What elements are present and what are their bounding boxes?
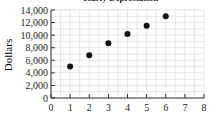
svg-text:2: 2 <box>87 102 92 113</box>
svg-text:6,000: 6,000 <box>26 55 49 66</box>
svg-text:7: 7 <box>182 102 187 113</box>
svg-text:2,000: 2,000 <box>26 80 49 91</box>
svg-text:0: 0 <box>49 102 54 113</box>
svg-text:10,000: 10,000 <box>21 30 49 41</box>
data-point <box>67 64 73 70</box>
data-point <box>86 52 92 58</box>
svg-text:4: 4 <box>125 102 130 113</box>
data-point <box>125 31 131 37</box>
data-point <box>144 23 150 29</box>
data-point <box>105 40 111 46</box>
grid-lines <box>51 10 204 98</box>
svg-text:14,000: 14,000 <box>21 5 49 16</box>
scatter-chart: 02,0004,0006,0008,00010,00012,00014,000 … <box>0 0 209 114</box>
svg-text:6: 6 <box>163 102 168 113</box>
y-axis-label: Dollars <box>2 39 14 71</box>
svg-text:4,000: 4,000 <box>26 67 49 78</box>
data-point <box>163 13 169 19</box>
svg-text:12,000: 12,000 <box>21 17 49 28</box>
svg-text:3: 3 <box>106 102 111 113</box>
svg-text:8,000: 8,000 <box>26 42 49 53</box>
svg-text:8: 8 <box>202 102 207 113</box>
y-tick-labels: 02,0004,0006,0008,00010,00012,00014,000 <box>21 5 49 104</box>
x-tick-labels: 012345678 <box>49 102 207 113</box>
svg-text:1: 1 <box>68 102 73 113</box>
svg-text:5: 5 <box>144 102 149 113</box>
svg-text:0: 0 <box>43 93 48 104</box>
